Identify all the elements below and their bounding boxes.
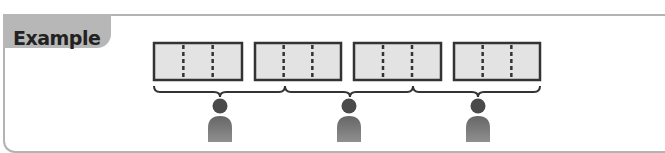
bar-box xyxy=(354,43,441,80)
person-icon xyxy=(466,99,490,143)
person-icon xyxy=(337,99,361,143)
bar-box xyxy=(154,43,242,80)
curly-brace xyxy=(285,86,413,97)
person-icon xyxy=(208,99,232,143)
bar-boxes xyxy=(154,43,540,80)
grouping-braces xyxy=(154,86,540,97)
bar-box xyxy=(454,43,540,80)
people-figures xyxy=(208,99,490,143)
curly-brace xyxy=(154,86,285,97)
curly-brace xyxy=(413,86,540,97)
bar-box xyxy=(255,43,341,80)
